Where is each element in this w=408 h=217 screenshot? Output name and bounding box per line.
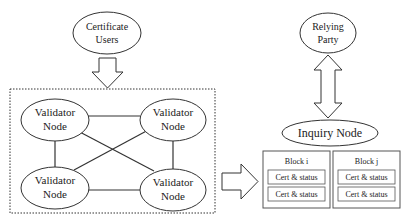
block-entry: Cert & status — [345, 173, 387, 182]
validator-node-bottom-right: Validator Node — [140, 169, 206, 211]
validator-node-top-right: Validator Node — [140, 99, 206, 141]
block-j: Block j Cert & status Cert & status — [333, 151, 400, 208]
validator-node-label: Node — [43, 188, 67, 200]
right-arrow-icon — [222, 164, 258, 199]
block-title: Block j — [355, 157, 378, 166]
block-entry: Cert & status — [345, 190, 387, 199]
certificate-users-line1: Certificate — [86, 21, 129, 32]
validator-node-label: Node — [161, 120, 185, 132]
block-entry: Cert & status — [275, 173, 317, 182]
relying-party-line2: Party — [317, 34, 338, 45]
validator-node-bottom-left: Validator Node — [21, 167, 89, 209]
certificate-users-line2: Users — [96, 34, 119, 45]
block-title: Block i — [285, 157, 309, 166]
validator-node-top-left: Validator Node — [21, 99, 89, 141]
validator-node-label: Validator — [35, 174, 76, 186]
inquiry-node-label: Inquiry Node — [298, 126, 362, 140]
relying-party-line1: Relying — [312, 21, 344, 32]
block-entry: Cert & status — [275, 190, 317, 199]
inquiry-node: Inquiry Node — [282, 120, 378, 146]
validator-node-label: Validator — [35, 106, 76, 118]
certificate-users-node: Certificate Users — [73, 12, 141, 54]
bidirectional-arrow-icon — [314, 55, 342, 118]
validator-node-label: Validator — [153, 176, 194, 188]
block-i: Block i Cert & status Cert & status — [263, 151, 330, 208]
validator-node-label: Validator — [153, 106, 194, 118]
relying-party-node: Relying Party — [300, 13, 356, 53]
diagram-canvas: Certificate Users Validator Node Validat… — [0, 0, 408, 217]
validator-node-label: Node — [43, 120, 67, 132]
validator-node-label: Node — [161, 190, 185, 202]
down-arrow-icon — [92, 58, 123, 88]
